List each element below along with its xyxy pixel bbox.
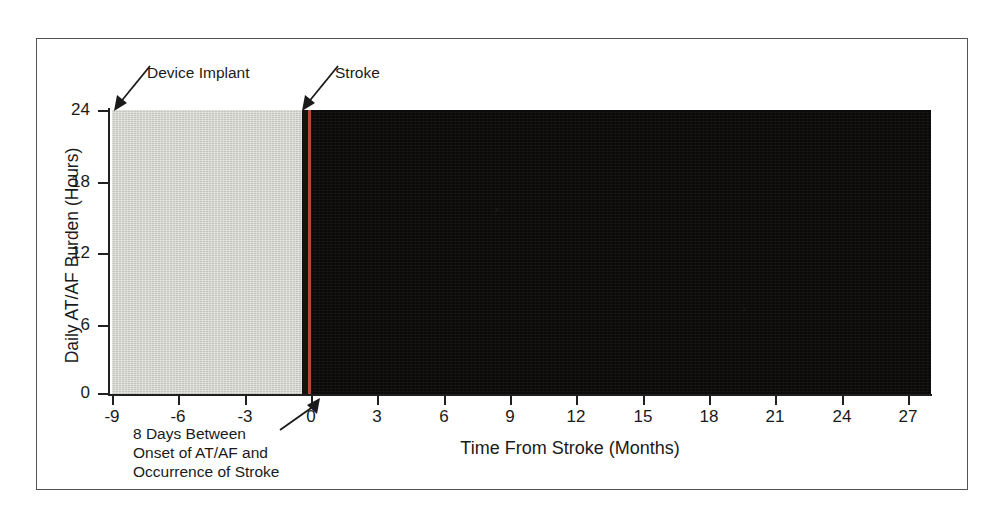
x-tick-label-3: 3 — [347, 407, 407, 426]
x-tick-label-9: 9 — [480, 407, 540, 426]
x-tick-label-18: 18 — [679, 407, 739, 426]
y-axis-line — [108, 108, 110, 396]
x-tick-label-21: 21 — [745, 407, 805, 426]
interval-note-arrow-icon — [276, 396, 324, 432]
x-tick-21 — [775, 396, 777, 405]
x-tick-12 — [576, 396, 578, 405]
pre-stroke-burden-band — [112, 110, 302, 395]
y-tick-0 — [98, 393, 108, 395]
plot-area: 24 18 12 6 0 -9 -6 -3 0 3 6 9 12 15 18 2… — [0, 0, 987, 520]
x-tick--3 — [245, 396, 247, 405]
x-tick-15 — [643, 396, 645, 405]
post-stroke-burden-band — [311, 110, 931, 395]
x-tick-label-27: 27 — [878, 407, 938, 426]
x-tick--6 — [178, 396, 180, 405]
y-tick-6 — [98, 325, 108, 327]
x-tick-18 — [709, 396, 711, 405]
x-tick-9 — [510, 396, 512, 405]
x-tick--9 — [112, 396, 114, 405]
y-tick-24 — [98, 110, 108, 112]
interval-note: 8 Days Between Onset of AT/AF and Occurr… — [133, 424, 279, 481]
y-axis-title: Daily AT/AF Burden (Hours) — [62, 96, 83, 416]
y-tick-12 — [98, 253, 108, 255]
stroke-marker-line — [308, 110, 311, 396]
x-tick-label-6: 6 — [414, 407, 474, 426]
x-axis-line — [108, 394, 932, 396]
x-tick-27 — [908, 396, 910, 405]
x-tick-24 — [842, 396, 844, 405]
x-tick-3 — [377, 396, 379, 405]
x-axis-title: Time From Stroke (Months) — [370, 438, 770, 459]
device-implant-label: Device Implant — [147, 64, 250, 82]
x-tick-6 — [444, 396, 446, 405]
stroke-label: Stroke — [335, 64, 380, 82]
x-tick-label-24: 24 — [812, 407, 872, 426]
x-tick-label-15: 15 — [613, 407, 673, 426]
x-tick-label-12: 12 — [546, 407, 606, 426]
y-tick-18 — [98, 182, 108, 184]
